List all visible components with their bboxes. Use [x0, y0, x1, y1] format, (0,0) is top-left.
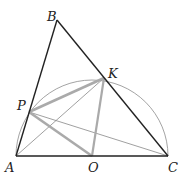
label-K: K	[107, 66, 119, 81]
segment-PO	[29, 112, 92, 156]
segment-PK	[29, 78, 104, 112]
segment-BC	[57, 20, 168, 156]
segment-KO	[92, 78, 104, 156]
geometry-figure: B K P A O C	[0, 0, 189, 179]
label-P: P	[16, 98, 26, 113]
label-C: C	[168, 160, 178, 175]
label-A: A	[4, 160, 14, 175]
label-B: B	[46, 9, 57, 24]
label-O: O	[88, 160, 99, 175]
segment-AK	[16, 78, 104, 156]
segment-AB	[16, 20, 57, 156]
